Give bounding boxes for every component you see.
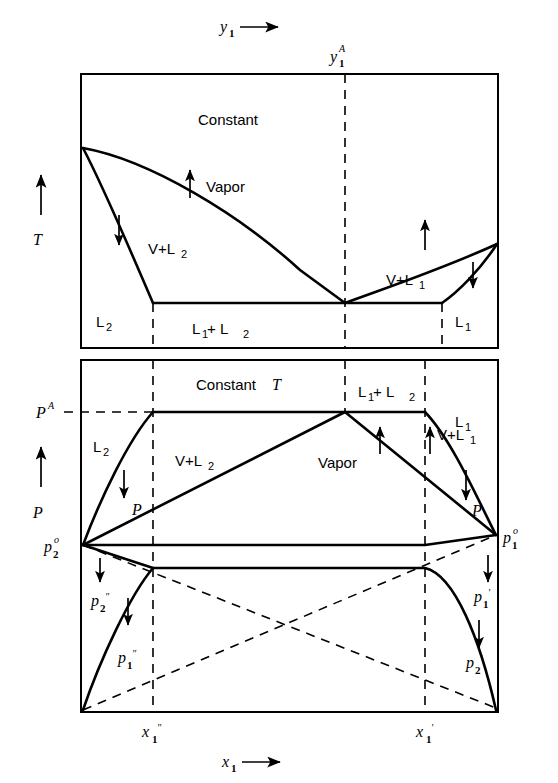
bottom-axis-label-base: x [221, 753, 229, 770]
top-region-l1l2-sub2: 2 [243, 328, 249, 340]
top-tick-label-y1A: y 1 A [328, 43, 346, 69]
bottom-label-p1-double-prime: p 1 ″ [117, 648, 137, 671]
bottom-region-vl1-base: V+L [437, 426, 464, 443]
bottom-region-vl2-sub: 2 [208, 460, 214, 472]
bottom-region-vl1-sub: 1 [470, 434, 476, 446]
p1dp-prime: ″ [132, 648, 137, 659]
p2o-sub: 2 [53, 548, 59, 560]
bottom-condition-base: Constant [196, 376, 257, 393]
top-axis-label-sub: 1 [229, 27, 235, 39]
x1p-sub: 1 [426, 733, 432, 745]
p1p-prime: ′ [488, 587, 491, 598]
p2dp-base: p [90, 592, 99, 610]
bottom-region-vapor-label: Vapor [318, 454, 357, 471]
pa-sup: A [47, 400, 55, 411]
bottom-endpoint-p2o: p 2 o [43, 534, 59, 560]
top-region-vl1-sub: 1 [419, 279, 425, 291]
p1o-sup: o [513, 525, 518, 536]
x1dp-prime: ″ [157, 722, 162, 733]
bottom-region-vapor: Vapor [318, 454, 357, 471]
p1p-sub: 1 [483, 598, 489, 610]
bottom-region-vl2-base: V+L [175, 452, 202, 469]
top-region-l1-plus-l2: L 1 + L 2 [192, 320, 249, 340]
top-bubble-curve-right [442, 244, 497, 303]
bottom-p-right-label: P [471, 502, 482, 519]
top-region-vl2-sub: 2 [181, 248, 187, 260]
bottom-region-l2: L 2 [93, 438, 109, 458]
bottom-region-l1l2-base2: + L [373, 383, 394, 400]
bottom-region-l2-sub: 2 [103, 446, 109, 458]
x1dp-sub: 1 [152, 733, 158, 745]
top-region-v-plus-l2: V+L 2 [148, 240, 187, 260]
bottom-pa-marker: P A [35, 400, 55, 421]
bottom-x-axis-title: x 1 [221, 753, 280, 774]
bottom-y-axis-title: P [32, 447, 43, 521]
top-panel-frame [81, 74, 498, 348]
phase-diagram-figure: ============ --> y 1 y 1 A T [0, 0, 558, 783]
bottom-partial-pressure-p1 [83, 535, 496, 545]
x1dp-base: x [141, 723, 149, 740]
top-region-vl2-base: V+L [148, 240, 175, 257]
bottom-p-left-label: P [131, 501, 142, 518]
x1p-base: x [415, 723, 423, 740]
bottom-region-l1-plus-l2: L 1 + L 2 [358, 383, 415, 403]
p2o-base: p [43, 538, 52, 556]
bottom-region-v-plus-l2: V+L 2 [175, 452, 214, 472]
p1o-sub: 1 [512, 539, 518, 551]
x1p-prime: ′ [431, 722, 434, 733]
top-region-l2-base: L [96, 313, 104, 330]
top-y-axis-title: T [33, 175, 43, 248]
p2o-sup: o [54, 534, 59, 545]
top-x-axis-title: y 1 [218, 18, 278, 39]
bottom-region-l1-sub: 1 [465, 421, 471, 433]
bottom-partial-pressure-p1-rise [83, 568, 153, 710]
p1dp-base: p [117, 649, 126, 667]
top-region-vl1-base: V+L [386, 271, 413, 288]
bottom-condition-label: Constant T [196, 376, 282, 393]
p1dp-sub: 1 [127, 659, 133, 671]
bottom-region-l1l2-sub2: 2 [409, 391, 415, 403]
diagram-canvas: ============ --> y 1 y 1 A T [0, 0, 558, 783]
top-region-l1-base: L [455, 313, 463, 330]
top-dew-curve-left [83, 148, 345, 303]
bottom-label-p1-prime: p 1 ′ [473, 587, 491, 610]
p1o-base: p [502, 529, 511, 547]
p2dp-prime: ″ [105, 591, 110, 602]
top-region-l1l2-base: L [192, 320, 200, 337]
bottom-condition-italic: T [272, 376, 282, 393]
p1p-base: p [473, 588, 482, 606]
bottom-raoult-line-1 [83, 535, 496, 710]
y1A-sup: A [338, 43, 346, 54]
top-y-axis-label: T [33, 231, 43, 248]
top-region-vapor-label: Vapor [206, 178, 245, 195]
p2dp-sub: 2 [100, 602, 106, 614]
bottom-label-p2-prime: p 2 ′ [465, 653, 483, 676]
top-bubble-curve-left [83, 148, 153, 303]
top-region-l2-sub: 2 [106, 321, 112, 333]
bottom-label-p2-double-prime: p 2 ″ [90, 591, 110, 614]
p2p-sub: 2 [475, 664, 481, 676]
bottom-axis-label-sub: 1 [231, 762, 237, 774]
y1A-base: y [328, 48, 338, 66]
bottom-endpoint-p1o: p 1 o [502, 525, 518, 551]
top-region-l1-sub: 1 [465, 321, 471, 333]
bottom-dew-curve-left [83, 412, 345, 545]
pa-base: P [35, 404, 46, 421]
bottom-region-l1l2-base: L [358, 383, 366, 400]
p2p-base: p [465, 654, 474, 672]
bottom-bubble-curve-left [83, 412, 153, 545]
top-axis-label-base: y [218, 18, 228, 36]
bottom-y-axis-label: P [32, 504, 43, 521]
top-region-v-plus-l1: V+L 1 [386, 271, 425, 291]
bottom-tick-x1-double-prime: x 1 ″ [141, 722, 162, 745]
y1A-sub: 1 [339, 57, 345, 69]
top-region-l1: L 1 [455, 313, 471, 333]
top-region-l2: L 2 [96, 313, 112, 333]
top-region-vapor: Vapor [206, 178, 245, 195]
top-region-l1l2-base2: + L [207, 320, 228, 337]
bottom-tick-x1-prime: x 1 ′ [415, 722, 434, 745]
top-condition-label: Constant [198, 111, 259, 128]
bottom-region-l2-base: L [93, 438, 101, 455]
